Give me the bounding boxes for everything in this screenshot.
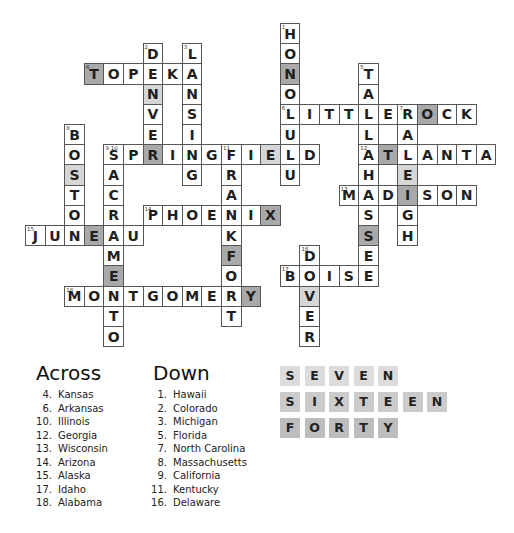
grid-cell[interactable]: G bbox=[397, 205, 418, 226]
grid-cell[interactable]: L bbox=[397, 144, 418, 165]
grid-cell[interactable]: E bbox=[260, 144, 281, 165]
grid-cell[interactable]: 7R bbox=[397, 104, 418, 125]
grid-cell[interactable]: N bbox=[182, 84, 203, 105]
grid-cell[interactable]: X bbox=[260, 205, 281, 226]
grid-cell[interactable]: O bbox=[437, 185, 458, 206]
grid-cell[interactable]: T bbox=[339, 104, 360, 125]
grid-cell[interactable]: O bbox=[280, 43, 301, 64]
grid-cell[interactable]: O bbox=[299, 265, 320, 286]
grid-cell[interactable]: I bbox=[241, 205, 262, 226]
grid-cell[interactable]: I bbox=[299, 104, 320, 125]
grid-cell[interactable]: Y bbox=[241, 286, 262, 307]
grid-cell[interactable]: 13M bbox=[339, 185, 360, 206]
grid-cell[interactable]: R bbox=[143, 144, 164, 165]
grid-cell[interactable]: 9 10S bbox=[103, 144, 124, 165]
grid-cell[interactable]: G bbox=[182, 164, 203, 185]
grid-cell[interactable]: R bbox=[221, 164, 242, 185]
grid-cell[interactable]: I bbox=[397, 185, 418, 206]
grid-cell[interactable]: N bbox=[456, 185, 477, 206]
grid-cell[interactable]: T bbox=[378, 144, 399, 165]
grid-cell[interactable]: H bbox=[162, 205, 183, 226]
grid-cell[interactable]: T bbox=[221, 306, 242, 327]
grid-cell[interactable]: N bbox=[182, 144, 203, 165]
grid-cell[interactable]: T bbox=[123, 286, 144, 307]
grid-cell[interactable]: E bbox=[358, 245, 379, 266]
grid-cell[interactable]: P bbox=[123, 144, 144, 165]
grid-cell[interactable]: A bbox=[103, 225, 124, 246]
grid-cell[interactable]: O bbox=[417, 104, 438, 125]
grid-cell[interactable]: E bbox=[397, 164, 418, 185]
grid-cell[interactable]: 4T bbox=[84, 63, 105, 84]
grid-cell[interactable]: 17B bbox=[280, 265, 301, 286]
grid-cell[interactable]: H bbox=[358, 164, 379, 185]
grid-cell[interactable]: O bbox=[221, 265, 242, 286]
grid-cell[interactable]: D bbox=[378, 185, 399, 206]
grid-cell[interactable]: I bbox=[319, 265, 340, 286]
grid-cell[interactable]: O bbox=[162, 286, 183, 307]
grid-cell[interactable]: I bbox=[241, 144, 262, 165]
grid-cell[interactable]: 18M bbox=[64, 286, 85, 307]
grid-cell[interactable]: D bbox=[299, 144, 320, 165]
grid-cell[interactable]: A bbox=[397, 124, 418, 145]
grid-cell[interactable]: L bbox=[280, 144, 301, 165]
grid-cell[interactable]: C bbox=[103, 185, 124, 206]
grid-cell[interactable]: A bbox=[103, 164, 124, 185]
grid-cell[interactable]: 1H bbox=[280, 23, 301, 44]
grid-cell[interactable]: T bbox=[103, 306, 124, 327]
grid-cell[interactable]: M bbox=[103, 245, 124, 266]
grid-cell[interactable]: E bbox=[358, 265, 379, 286]
grid-cell[interactable]: A bbox=[182, 63, 203, 84]
grid-cell[interactable]: R bbox=[221, 286, 242, 307]
grid-cell[interactable]: C bbox=[437, 104, 458, 125]
grid-cell[interactable]: K bbox=[221, 225, 242, 246]
grid-cell[interactable]: E bbox=[378, 104, 399, 125]
grid-cell[interactable]: 8B bbox=[64, 124, 85, 145]
grid-cell[interactable]: R bbox=[103, 205, 124, 226]
grid-cell[interactable]: O bbox=[103, 326, 124, 347]
grid-cell[interactable]: A bbox=[221, 185, 242, 206]
grid-cell[interactable]: E bbox=[143, 63, 164, 84]
grid-cell[interactable]: 14P bbox=[143, 205, 164, 226]
grid-cell[interactable]: O bbox=[103, 63, 124, 84]
grid-cell[interactable]: E bbox=[103, 265, 124, 286]
grid-cell[interactable]: E bbox=[201, 286, 222, 307]
grid-cell[interactable]: K bbox=[162, 63, 183, 84]
grid-cell[interactable]: 5T bbox=[358, 63, 379, 84]
grid-cell[interactable]: L bbox=[358, 124, 379, 145]
grid-cell[interactable]: H bbox=[397, 225, 418, 246]
grid-cell[interactable]: 16D bbox=[299, 245, 320, 266]
grid-cell[interactable]: O bbox=[64, 144, 85, 165]
grid-cell[interactable]: 15J bbox=[25, 225, 46, 246]
grid-cell[interactable]: E bbox=[201, 205, 222, 226]
grid-cell[interactable]: E bbox=[299, 306, 320, 327]
grid-cell[interactable]: V bbox=[143, 104, 164, 125]
grid-cell[interactable]: N bbox=[221, 205, 242, 226]
grid-cell[interactable]: F bbox=[221, 245, 242, 266]
grid-cell[interactable]: U bbox=[123, 225, 144, 246]
grid-cell[interactable]: O bbox=[84, 286, 105, 307]
grid-cell[interactable]: E bbox=[143, 124, 164, 145]
grid-cell[interactable]: S bbox=[358, 205, 379, 226]
grid-cell[interactable]: U bbox=[280, 124, 301, 145]
grid-cell[interactable]: L bbox=[358, 104, 379, 125]
grid-cell[interactable]: P bbox=[123, 63, 144, 84]
grid-cell[interactable]: A bbox=[358, 84, 379, 105]
grid-cell[interactable]: M bbox=[182, 286, 203, 307]
grid-cell[interactable]: S bbox=[182, 104, 203, 125]
grid-cell[interactable]: N bbox=[64, 225, 85, 246]
grid-cell[interactable]: 6L bbox=[280, 104, 301, 125]
grid-cell[interactable]: I bbox=[162, 144, 183, 165]
grid-cell[interactable]: A bbox=[476, 144, 497, 165]
grid-cell[interactable]: N bbox=[103, 286, 124, 307]
grid-cell[interactable]: S bbox=[339, 265, 360, 286]
grid-cell[interactable]: O bbox=[64, 205, 85, 226]
grid-cell[interactable]: 12A bbox=[358, 144, 379, 165]
grid-cell[interactable]: I bbox=[182, 124, 203, 145]
grid-cell[interactable]: O bbox=[280, 84, 301, 105]
grid-cell[interactable]: E bbox=[84, 225, 105, 246]
grid-cell[interactable]: G bbox=[201, 144, 222, 165]
grid-cell[interactable]: N bbox=[280, 63, 301, 84]
grid-cell[interactable]: A bbox=[358, 185, 379, 206]
grid-cell[interactable]: U bbox=[280, 164, 301, 185]
grid-cell[interactable]: T bbox=[456, 144, 477, 165]
